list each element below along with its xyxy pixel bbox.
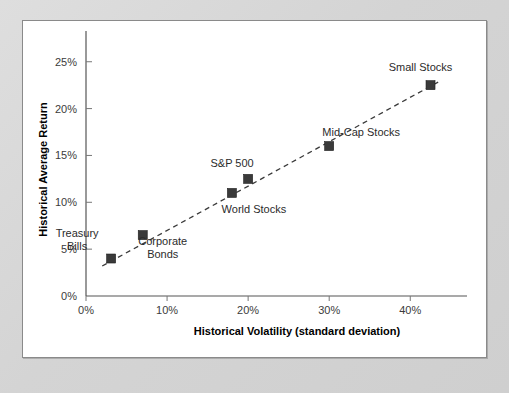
data-point-label: Mid-Cap Stocks — [322, 126, 400, 138]
data-point-label: Treasury — [56, 227, 99, 239]
data-point-marker[interactable] — [244, 174, 253, 183]
x-tick-label: 40% — [399, 304, 421, 316]
chart-figure-panel: 0%10%20%30%40% 0%5%10%15%20%25% Treasury… — [22, 20, 487, 358]
x-tick-label: 30% — [318, 304, 340, 316]
x-tick-label: 0% — [78, 304, 94, 316]
data-point-label: World Stocks — [222, 203, 287, 215]
data-point-marker[interactable] — [325, 142, 334, 151]
data-point-label: Bills — [67, 240, 88, 252]
data-point-label: Bonds — [147, 248, 179, 260]
y-tick-label: 0% — [61, 290, 77, 302]
y-tick-label: 10% — [55, 196, 77, 208]
x-tick-label: 20% — [237, 304, 259, 316]
data-point-label: Corporate — [138, 235, 187, 247]
scatter-plot-canvas: 0%10%20%30%40% 0%5%10%15%20%25% Treasury… — [23, 21, 486, 357]
data-point-labels-group: TreasuryBillsCorporateBondsWorld StocksS… — [56, 61, 453, 260]
data-point-marker[interactable] — [426, 81, 435, 90]
x-axis-title: Historical Volatility (standard deviatio… — [194, 325, 401, 337]
data-point-label: S&P 500 — [211, 157, 254, 169]
data-point-label: Small Stocks — [389, 61, 453, 73]
x-tick-label: 10% — [156, 304, 178, 316]
x-axis-ticks: 0%10%20%30%40% — [78, 296, 421, 316]
y-tick-label: 15% — [55, 149, 77, 161]
y-axis-title: Historical Average Return — [37, 102, 49, 237]
y-tick-label: 20% — [55, 103, 77, 115]
y-tick-label: 25% — [55, 56, 77, 68]
data-point-marker[interactable] — [107, 254, 116, 263]
data-point-marker[interactable] — [227, 188, 236, 197]
